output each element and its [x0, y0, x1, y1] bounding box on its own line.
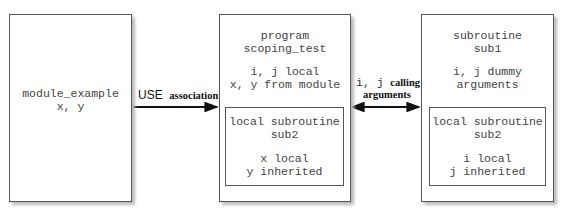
program-vars-1: i, j local — [220, 65, 350, 78]
association-text: association — [169, 90, 218, 101]
calling-arguments-label: i, j calling arguments — [356, 76, 418, 100]
use-keyword: USE — [138, 88, 163, 102]
calling-text: calling — [390, 77, 420, 88]
inner-vars-2: j inherited — [430, 165, 545, 178]
inner-vars-2: y inherited — [226, 165, 343, 178]
inner-title-1: local subroutine — [226, 115, 343, 128]
sub1-title-1: subroutine — [422, 29, 553, 42]
inner-title-1: local subroutine — [430, 115, 545, 128]
subroutine-box: subroutine sub1 i, j dummy arguments loc… — [421, 14, 554, 202]
module-vars: x, y — [10, 100, 131, 113]
module-box: module_example x, y — [9, 14, 132, 202]
program-title-2: scoping_test — [220, 42, 350, 55]
arguments-text: arguments — [356, 89, 418, 100]
program-vars-2: x, y from module — [220, 78, 350, 91]
inner-vars-1: i local — [430, 152, 545, 165]
sub1-inner-sub2-box: local subroutine sub2 i local j inherite… — [429, 107, 546, 186]
module-name: module_example — [10, 87, 131, 100]
inner-title-2: sub2 — [430, 128, 545, 141]
program-box: program scoping_test i, j local x, y fro… — [219, 14, 351, 202]
sub1-title-2: sub1 — [422, 42, 553, 55]
program-inner-sub2-box: local subroutine sub2 x local y inherite… — [225, 107, 344, 186]
program-title-1: program — [220, 29, 350, 42]
use-association-label: USE association — [138, 88, 218, 102]
inner-title-2: sub2 — [226, 128, 343, 141]
sub1-vars-1: i, j dummy — [422, 65, 553, 78]
inner-vars-1: x local — [226, 152, 343, 165]
sub1-vars-2: arguments — [422, 78, 553, 91]
call-keyword: i, j — [356, 76, 384, 89]
